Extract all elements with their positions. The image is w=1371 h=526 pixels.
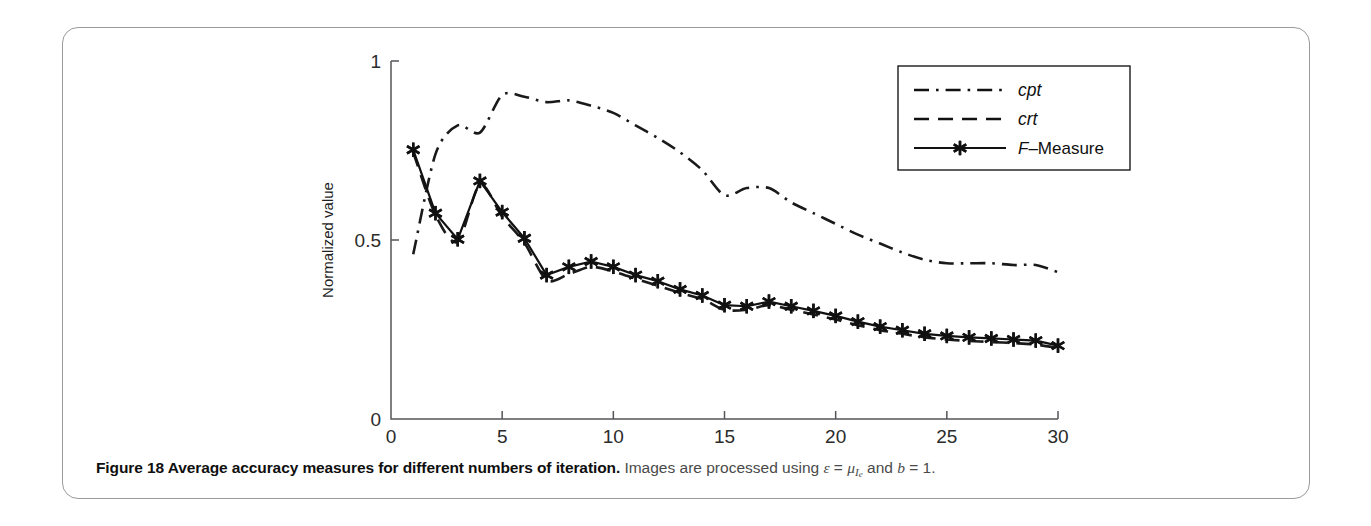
data-point-marker — [629, 268, 641, 282]
series-line — [413, 152, 1058, 348]
caption-body: Images are processed using ε = μIe and b… — [624, 459, 935, 476]
caption-text-pre: Images are processed using — [624, 459, 823, 476]
x-tick-label: 30 — [1047, 426, 1068, 447]
chart-plot-area: 05101520253000.51Iteration,tNormalized v… — [63, 28, 1311, 448]
legend-label: crt — [1018, 109, 1039, 129]
y-axis-ticks: 00.51 — [355, 51, 399, 430]
data-point-marker — [407, 143, 419, 157]
x-axis-ticks: 051015202530 — [386, 411, 1069, 447]
y-tick-label: 0.5 — [355, 230, 381, 251]
data-point-marker — [652, 274, 664, 288]
series-crt — [413, 152, 1058, 348]
x-tick-label: 15 — [714, 426, 735, 447]
y-tick-label: 0 — [370, 409, 381, 430]
caption-equals-1: = — [830, 459, 848, 476]
caption-and-text: and — [863, 459, 897, 476]
figure-panel: 05101520253000.51Iteration,tNormalized v… — [62, 27, 1310, 499]
legend-label: F–Measure — [1018, 139, 1104, 158]
series-line — [413, 150, 1058, 346]
x-tick-label: 5 — [497, 426, 508, 447]
legend-label: cpt — [1018, 80, 1042, 100]
chart-legend: cptcrtF–Measure — [898, 66, 1130, 170]
caption-equals-2: = 1. — [905, 459, 936, 476]
x-tick-label: 0 — [386, 426, 397, 447]
data-point-marker — [696, 288, 708, 302]
caption-mu-symbol: μ — [847, 459, 855, 476]
accuracy-line-chart: 05101520253000.51Iteration,tNormalized v… — [63, 28, 1311, 448]
x-tick-label: 20 — [825, 426, 846, 447]
x-tick-label: 25 — [936, 426, 957, 447]
series-f-measure — [407, 143, 1064, 353]
caption-title: Figure 18 Average accuracy measures for … — [96, 459, 620, 476]
figure-caption: Figure 18 Average accuracy measures for … — [96, 458, 1276, 480]
x-tick-label: 10 — [603, 426, 624, 447]
y-tick-label: 1 — [370, 51, 381, 72]
data-point-marker — [674, 282, 686, 296]
y-axis-title: Normalized value — [319, 182, 336, 298]
caption-b-symbol: b — [897, 459, 905, 476]
